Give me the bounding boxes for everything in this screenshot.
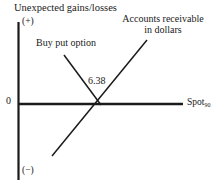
accounts-receivable-annotation: Accounts receivable in dollars (110, 14, 216, 35)
x-axis-label-text: Spot (187, 97, 204, 107)
x-axis-label: Spot90 (187, 98, 210, 108)
accounts-receivable-annotation-line1: Accounts receivable (122, 13, 203, 24)
strike-value-annotation: 6.38 (88, 76, 106, 87)
y-axis-negative-label: (−) (22, 166, 34, 176)
unexpected-gains-losses-chart: Unexpected gains/losses (+) (−) 0 Spot90… (0, 0, 219, 188)
buy-put-option-annotation: Buy put option (36, 38, 96, 49)
accounts-receivable-annotation-line2: in dollars (110, 25, 216, 36)
x-axis-label-subscript: 90 (204, 102, 210, 108)
origin-label: 0 (6, 96, 11, 107)
y-axis-positive-label: (+) (22, 17, 34, 27)
chart-title: Unexpected gains/losses (14, 2, 117, 13)
